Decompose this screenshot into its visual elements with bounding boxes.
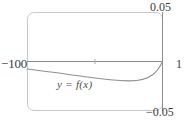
- axis-label-xmin: −100: [1, 57, 27, 70]
- plot-canvas: [27, 12, 163, 111]
- axis-label-ymin: −0.05: [146, 106, 174, 118]
- axis-label-ymax: 0.05: [150, 1, 171, 13]
- axis-label-xmax: 1: [176, 58, 182, 70]
- function-curve: [27, 62, 163, 81]
- function-annotation-label: y = f(x): [57, 78, 92, 90]
- graph-figure: −100 1 0.05 −0.05 y = f(x): [0, 0, 189, 123]
